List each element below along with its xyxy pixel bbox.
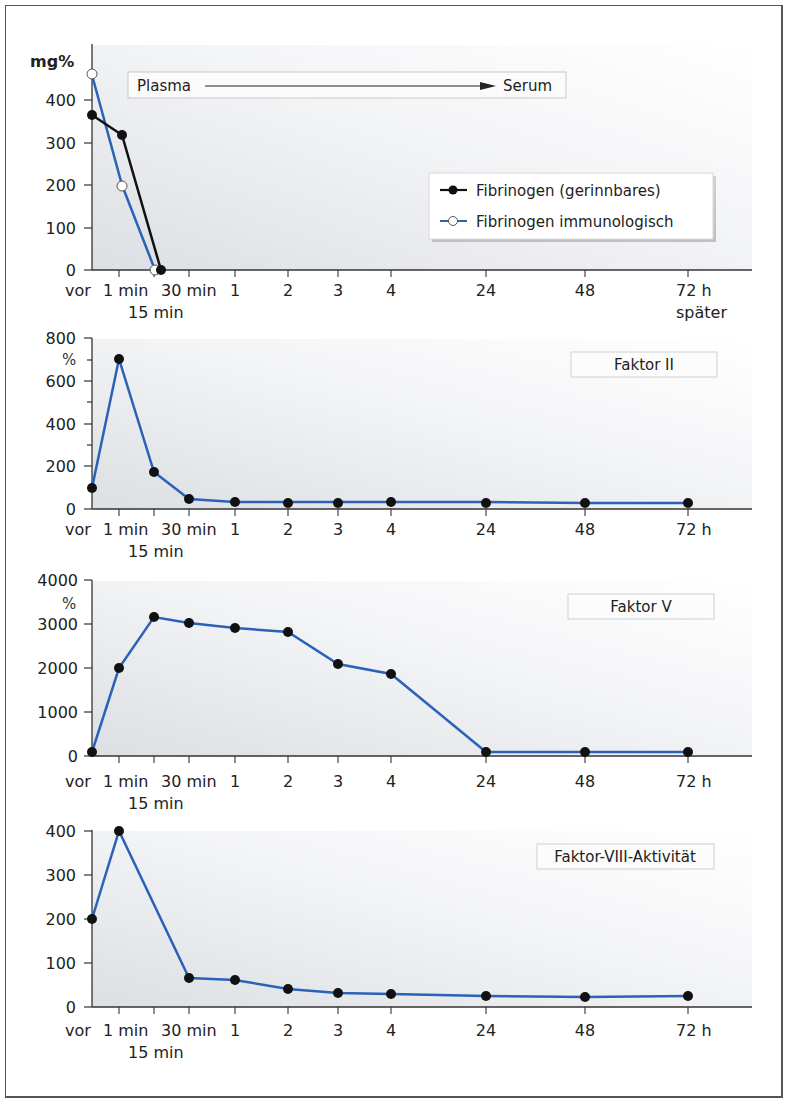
svg-text:15 min: 15 min [128,542,184,561]
y-tick-label: 300 [45,134,76,153]
svg-text:Faktor-VIII-Aktivität: Faktor-VIII-Aktivität [554,848,696,866]
svg-text:vor: vor [65,772,91,791]
svg-text:72 h: 72 h [676,1021,712,1040]
x-tick-labels: vor 1 min 15 min 30 min 1 2 3 4 24 48 72… [65,520,712,561]
x-ticks [119,509,688,516]
y-tick-label: 100 [45,219,76,238]
y-tick-label: 0 [68,747,78,766]
svg-text:1: 1 [230,281,240,300]
chart-faktor-v: 0 1000 2000 3000 4000 % vor 1 min 15 min… [37,571,752,813]
y-tick-label: 1000 [37,703,78,722]
open-circle-icon [449,217,458,226]
svg-text:vor: vor [65,281,91,300]
y-tick-label: 3000 [37,615,78,634]
svg-text:4: 4 [386,520,396,539]
svg-text:30 min: 30 min [161,1021,217,1040]
svg-text:30 min: 30 min [161,281,217,300]
svg-text:2: 2 [283,772,293,791]
y-tick-label: 0 [66,261,76,280]
x-ticks [119,1007,688,1014]
legend-item-2: Fibrinogen immunologisch [476,213,673,231]
svg-text:später: später [676,303,727,322]
svg-text:Serum: Serum [503,77,552,95]
plasma-serum-banner: Plasma Serum [128,72,566,98]
svg-text:24: 24 [476,281,496,300]
svg-text:15 min: 15 min [128,303,184,322]
y-tick-label: 200 [45,457,76,476]
svg-text:2: 2 [283,520,293,539]
y-tick-label: 400 [45,91,76,110]
y-tick-label: 300 [45,866,76,885]
svg-text:Faktor V: Faktor V [610,598,672,616]
x-ticks [119,270,688,277]
y-tick-label: 4000 [37,571,78,590]
svg-text:48: 48 [575,520,595,539]
svg-text:1 min: 1 min [103,281,148,300]
y-tick-label: 0 [66,998,76,1017]
svg-text:Faktor II: Faktor II [614,356,674,374]
chart-fibrinogen: mg% 0 100 200 300 400 vor 1 min 15 min 3… [30,44,752,322]
y-tick-label: 600 [45,372,76,391]
legend-item-1: Fibrinogen (gerinnbares) [476,182,661,200]
svg-text:1: 1 [230,1021,240,1040]
svg-text:1 min: 1 min [103,1021,148,1040]
y-unit-label: % [62,595,76,613]
svg-text:4: 4 [386,281,396,300]
x-tick-labels: vor 1 min 15 min 30 min 1 2 3 4 24 48 72… [65,1021,712,1062]
svg-text:1 min: 1 min [103,520,148,539]
svg-text:48: 48 [575,772,595,791]
svg-text:vor: vor [65,1021,91,1040]
y-unit-label: mg% [30,52,74,71]
svg-text:2: 2 [283,281,293,300]
svg-text:2: 2 [283,1021,293,1040]
y-tick-label: 400 [45,822,76,841]
x-ticks [119,756,688,763]
y-unit-label: % [62,351,76,369]
svg-text:3: 3 [333,281,343,300]
svg-text:24: 24 [476,1021,496,1040]
svg-text:3: 3 [333,1021,343,1040]
svg-text:48: 48 [575,1021,595,1040]
svg-text:4: 4 [386,1021,396,1040]
title-box: Faktor II [571,352,717,377]
filled-circle-icon [449,186,458,195]
svg-text:24: 24 [476,772,496,791]
y-tick-label: 200 [45,910,76,929]
svg-text:15 min: 15 min [128,794,184,813]
y-tick-label: 0 [66,500,76,519]
svg-text:72 h: 72 h [676,772,712,791]
x-tick-labels: vor 1 min 15 min 30 min 1 2 3 4 24 48 72… [65,772,712,813]
y-tick-label: 800 [45,329,76,348]
y-tick-label: 200 [45,176,76,195]
y-tick-label: 400 [45,415,76,434]
svg-text:48: 48 [575,281,595,300]
svg-text:15 min: 15 min [128,1043,184,1062]
svg-text:24: 24 [476,520,496,539]
svg-text:vor: vor [65,520,91,539]
svg-text:3: 3 [333,772,343,791]
svg-text:Plasma: Plasma [137,77,191,95]
chart-faktor-viii: 0 100 200 300 400 vor 1 min 15 min 30 mi… [45,822,752,1062]
svg-text:30 min: 30 min [161,772,217,791]
svg-text:4: 4 [386,772,396,791]
svg-text:1: 1 [230,520,240,539]
title-box: Faktor-VIII-Aktivität [537,844,714,869]
chart-faktor-ii: 0 200 400 600 800 % vor 1 min 15 min 30 … [45,329,752,561]
x-tick-labels: vor 1 min 15 min 30 min 1 2 3 4 24 48 72… [65,281,727,322]
svg-text:3: 3 [333,520,343,539]
y-tick-label: 100 [45,954,76,973]
y-ticks [84,100,92,270]
svg-text:30 min: 30 min [161,520,217,539]
svg-text:72 h: 72 h [676,520,712,539]
svg-text:72 h: 72 h [676,281,712,300]
figure-canvas: mg% 0 100 200 300 400 vor 1 min 15 min 3… [0,0,788,1109]
svg-text:1: 1 [230,772,240,791]
svg-text:1 min: 1 min [103,772,148,791]
title-box: Faktor V [568,594,714,619]
y-ticks [84,580,92,756]
y-tick-label: 2000 [37,659,78,678]
legend: Fibrinogen (gerinnbares) Fibrinogen immu… [429,173,716,242]
